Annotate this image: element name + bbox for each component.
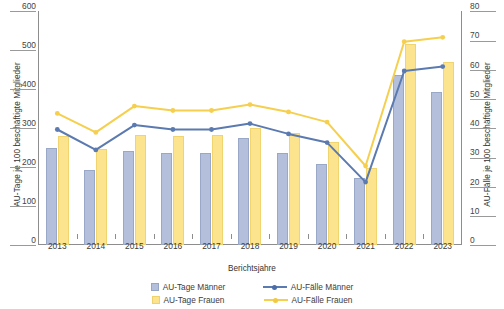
point-au-faelle-frauen[interactable] — [171, 108, 176, 113]
line-au-faelle-frauen — [57, 37, 442, 166]
point-au-faelle-frauen[interactable] — [93, 130, 98, 135]
x-tick — [385, 234, 386, 239]
point-au-faelle-frauen[interactable] — [402, 39, 407, 44]
x-tick — [38, 234, 39, 239]
x-tick — [115, 234, 116, 239]
x-category-label: 2013 — [37, 241, 77, 251]
legend-row-2: AU-Tage Frauen AU-Fälle Frauen — [152, 295, 353, 305]
point-au-faelle-maenner[interactable] — [325, 140, 330, 145]
point-au-faelle-frauen[interactable] — [440, 35, 445, 40]
y-tick-left: 400 — [10, 80, 36, 90]
line-series-layer — [38, 11, 462, 245]
point-au-faelle-maenner[interactable] — [286, 132, 291, 137]
x-category-label: 2014 — [76, 241, 116, 251]
y-tick-left: 600 — [10, 2, 36, 12]
point-au-faelle-maenner[interactable] — [248, 121, 253, 126]
x-category-label: 2017 — [191, 241, 231, 251]
legend-item-au-tage-maenner[interactable]: AU-Tage Männer — [151, 282, 263, 292]
legend-item-au-tage-frauen[interactable]: AU-Tage Frauen — [152, 295, 264, 305]
x-tick — [231, 234, 232, 239]
x-category-label: 2019 — [269, 241, 309, 251]
point-au-faelle-frauen[interactable] — [132, 104, 137, 109]
x-category-label: 2016 — [153, 241, 193, 251]
legend-row-1: AU-Tage Männer AU-Fälle Männer — [151, 282, 354, 292]
plot-area — [38, 11, 462, 245]
y-tick-right: 70 — [470, 31, 496, 41]
x-category-label: 2021 — [346, 241, 386, 251]
legend-label: AU-Tage Frauen — [164, 295, 225, 305]
point-au-faelle-frauen[interactable] — [363, 164, 368, 169]
legend-label: AU-Fälle Männer — [291, 282, 354, 292]
legend-line-marker-men-icon — [263, 283, 287, 291]
point-au-faelle-frauen[interactable] — [209, 108, 214, 113]
y-tick-right: 80 — [470, 2, 496, 12]
x-category-label: 2015 — [114, 241, 154, 251]
legend-item-au-faelle-frauen[interactable]: AU-Fälle Frauen — [264, 295, 353, 305]
x-tick — [192, 234, 193, 239]
y-tick-right: 60 — [470, 61, 496, 71]
legend-line-marker-women-icon — [264, 296, 288, 304]
legend-item-au-faelle-maenner[interactable]: AU-Fälle Männer — [263, 282, 354, 292]
legend-swatch-bar-women-icon — [152, 296, 160, 304]
x-tick — [154, 234, 155, 239]
point-au-faelle-maenner[interactable] — [93, 148, 98, 153]
chart-container: AU-Tage je 100 beschäftigte Mitglieder A… — [0, 0, 504, 309]
y-tick-right: 10 — [470, 207, 496, 217]
x-category-label: 2020 — [307, 241, 347, 251]
y-tick-right: 30 — [470, 148, 496, 158]
point-au-faelle-frauen[interactable] — [286, 110, 291, 115]
point-au-faelle-maenner[interactable] — [132, 123, 137, 128]
point-au-faelle-maenner[interactable] — [171, 127, 176, 132]
y-tick-right: 40 — [470, 119, 496, 129]
x-tick — [308, 234, 309, 239]
point-au-faelle-maenner[interactable] — [55, 127, 60, 132]
x-tick — [77, 234, 78, 239]
y-tick-right: 0 — [470, 236, 496, 246]
x-tick — [423, 234, 424, 239]
point-au-faelle-frauen[interactable] — [325, 120, 330, 125]
point-au-faelle-frauen[interactable] — [55, 111, 60, 116]
y-tick-left: 200 — [10, 158, 36, 168]
legend-swatch-bar-men-icon — [151, 283, 159, 291]
point-au-faelle-frauen[interactable] — [248, 102, 253, 107]
y-tick-right: 50 — [470, 90, 496, 100]
x-tick — [269, 234, 270, 239]
y-tick-left: 300 — [10, 119, 36, 129]
chart-legend: AU-Tage Männer AU-Fälle Männer AU-Tage F… — [0, 282, 504, 305]
x-category-label: 2022 — [384, 241, 424, 251]
point-au-faelle-maenner[interactable] — [402, 69, 407, 74]
x-tick — [346, 234, 347, 239]
point-au-faelle-maenner[interactable] — [363, 180, 368, 185]
y-tick-right: 20 — [470, 178, 496, 188]
legend-label: AU-Fälle Frauen — [292, 295, 353, 305]
x-category-label: 2018 — [230, 241, 270, 251]
chart-title — [0, 0, 504, 3]
x-category-label: 2023 — [423, 241, 463, 251]
point-au-faelle-maenner[interactable] — [209, 127, 214, 132]
y-tick-left: 0 — [10, 236, 36, 246]
legend-label: AU-Tage Männer — [163, 282, 226, 292]
y-tick-left: 100 — [10, 197, 36, 207]
point-au-faelle-maenner[interactable] — [440, 64, 445, 69]
y-tick-left: 500 — [10, 41, 36, 51]
x-axis-title: Berichtsjahre — [0, 264, 504, 273]
